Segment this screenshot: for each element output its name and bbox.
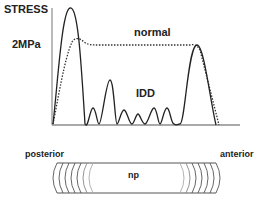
nucleus-pulposus-label: np xyxy=(128,170,139,180)
y-tick-label: 2MPa xyxy=(12,38,41,50)
anterior-label: anterior xyxy=(220,149,254,159)
posterior-annulus-lamellae xyxy=(53,163,93,193)
normal-series-label: normal xyxy=(134,26,171,38)
posterior-label: posterior xyxy=(25,149,64,159)
y-axis-label: STRESS xyxy=(4,3,48,15)
anterior-annulus-lamellae xyxy=(180,163,220,193)
idd-series-label: IDD xyxy=(136,87,155,99)
normal-curve xyxy=(53,39,219,125)
